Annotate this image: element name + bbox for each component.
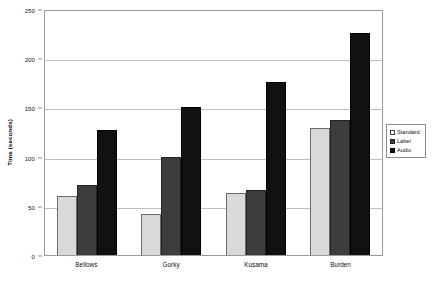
bar[interactable] [310,128,330,255]
bar[interactable] [266,82,286,255]
bar[interactable] [350,33,370,255]
bar-group [298,11,382,255]
x-axis-tick-label: Gorky [129,258,214,274]
legend-item[interactable]: Standard [390,128,422,136]
y-axis-ticks: 050100150200250 [0,0,42,285]
y-axis-tick-label: 0 [32,253,35,260]
bar[interactable] [330,120,350,255]
bar-group [129,11,213,255]
legend-swatch-icon [390,139,395,144]
bar[interactable] [181,107,201,255]
y-axis-tick-mark [38,108,42,109]
x-axis-tick-label: Bellows [44,258,129,274]
x-axis-tick-label: Burden [298,258,383,274]
y-axis-tick-mark [38,59,42,60]
y-axis-tick-label: 150 [25,105,35,112]
legend-item-label: Audio [397,147,411,154]
bar[interactable] [226,193,246,255]
bar[interactable] [141,214,161,255]
y-axis-tick-label: 250 [25,7,35,14]
plot-area [44,10,383,256]
bar[interactable] [57,196,77,255]
x-axis-labels: BellowsGorkyKusamaBurden [44,258,383,274]
y-axis-tick-label: 100 [25,154,35,161]
y-axis-tick-label: 50 [28,203,35,210]
y-axis-tick-mark [38,206,42,207]
legend-item-label: Standard [397,129,420,136]
y-axis-tick-mark [38,10,42,11]
bar-group [45,11,129,255]
chart-legend: StandardLabelAudio [386,124,426,158]
bar[interactable] [246,190,266,255]
bars-layer [45,11,382,255]
legend-swatch-icon [390,130,395,135]
bar[interactable] [77,185,97,255]
x-axis-tick-label: Kusama [214,258,299,274]
bar[interactable] [97,130,117,255]
legend-item[interactable]: Label [390,137,422,145]
bar-chart: Time (seconds) 050100150200250 BellowsGo… [0,0,433,285]
legend-swatch-icon [390,148,395,153]
y-axis-tick-label: 200 [25,56,35,63]
legend-item-label: Label [397,138,411,145]
legend-item[interactable]: Audio [390,146,422,154]
bar[interactable] [161,157,181,255]
bar-group [214,11,298,255]
y-axis-tick-mark [38,256,42,257]
y-axis-tick-mark [38,157,42,158]
